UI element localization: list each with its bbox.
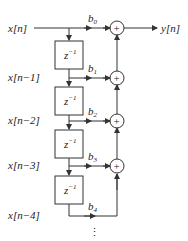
coef-b3: b3 [88, 150, 98, 164]
svg-text:z−1: z−1 [63, 183, 77, 196]
tap-label-2: x[n−2] [7, 114, 40, 126]
tap-label-1: x[n−1] [7, 71, 40, 83]
adder-0: + [110, 21, 124, 35]
tap-label-3: x[n−3] [7, 159, 40, 171]
coef-b2: b2 [88, 105, 98, 119]
adder-2: + [110, 114, 124, 128]
adder-1: + [110, 71, 124, 85]
delay-box-4: z−1 [55, 176, 83, 204]
tap-label-4: x[n−4] [7, 209, 40, 221]
svg-text:+: + [114, 22, 120, 34]
svg-text:+: + [114, 160, 120, 172]
coef-b0: b0 [88, 12, 98, 26]
fir-filter-diagram: x[n] y[n] z−1 z−1 z−1 z−1 + + + + [0, 0, 188, 241]
svg-text:z−1: z−1 [63, 94, 77, 107]
continuation-dots: ⋮ [89, 226, 100, 238]
coef-b1: b1 [88, 62, 97, 76]
coef-b4: b4 [88, 200, 98, 214]
input-label: x[n] [7, 22, 27, 34]
svg-text:+: + [114, 72, 120, 84]
adder-3: + [110, 159, 124, 173]
delay-box-1: z−1 [55, 41, 83, 69]
delay-box-2: z−1 [55, 87, 83, 115]
svg-text:z−1: z−1 [63, 48, 77, 61]
svg-text:z−1: z−1 [63, 137, 77, 150]
output-label: y[n] [160, 22, 180, 34]
delay-box-3: z−1 [55, 130, 83, 158]
svg-text:+: + [114, 115, 120, 127]
